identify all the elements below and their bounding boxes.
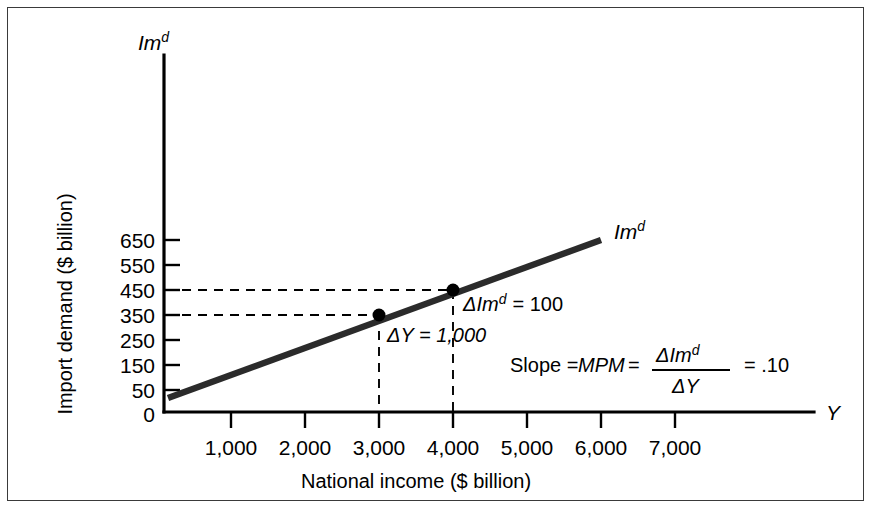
- slope-denominator: ΔY: [671, 375, 700, 397]
- delta-im-value: = 100: [512, 293, 563, 315]
- curve-label: Imd: [614, 218, 646, 243]
- slope-formula: Slope = MPM = ΔImd ΔY = .10: [510, 342, 789, 397]
- figure-frame: Import demand ($ billion) National incom…: [7, 7, 864, 501]
- y-axis-symbol-text: Im: [138, 31, 161, 54]
- x-tick-label-4000: 4,000: [427, 436, 480, 459]
- x-tick-label-1000: 1,000: [205, 436, 258, 459]
- import-demand-chart: Import demand ($ billion) National incom…: [8, 8, 865, 500]
- curve-label-text: Im: [614, 220, 637, 243]
- x-tick-label-5000: 5,000: [501, 436, 554, 459]
- x-tick-marks: [231, 412, 675, 428]
- slope-result: = .10: [744, 354, 789, 376]
- x-tick-label-6000: 6,000: [575, 436, 628, 459]
- x-tick-labels: 1,000 2,000 3,000 4,000 5,000 6,000 7,00…: [205, 436, 702, 459]
- x-tick-label-2000: 2,000: [279, 436, 332, 459]
- x-tick-label-3000: 3,000: [353, 436, 406, 459]
- delta-im-annotation: ΔImd= 100: [462, 291, 563, 315]
- slope-numerator: ΔImd: [655, 342, 701, 366]
- curve-label-sup: d: [637, 218, 646, 234]
- slope-prefix: Slope =: [510, 354, 578, 376]
- y-tick-label-550: 550: [120, 254, 155, 277]
- y-tick-labels: 650 550 450 350 250 150 50 0: [120, 229, 155, 426]
- y-tick-label-50: 50: [132, 379, 155, 402]
- delta-im-symbol: ΔIm: [462, 293, 499, 315]
- y-tick-label-450: 450: [120, 279, 155, 302]
- x-axis-symbol: Y: [826, 401, 842, 424]
- delta-y-annotation: ΔY = 1,000: [386, 324, 486, 346]
- x-tick-label-7000: 7,000: [649, 436, 702, 459]
- data-point-4000-450: [447, 284, 460, 297]
- slope-numerator-text: ΔIm: [655, 344, 692, 366]
- x-axis-title: National income ($ billion): [301, 470, 531, 492]
- y-axis-symbol-sup: d: [161, 29, 170, 45]
- slope-numerator-sup: d: [692, 342, 701, 358]
- y-tick-label-350: 350: [120, 304, 155, 327]
- y-tick-label-250: 250: [120, 329, 155, 352]
- y-axis-title: Import demand ($ billion): [54, 193, 76, 414]
- y-tick-label-0: 0: [143, 403, 155, 426]
- data-point-3000-350: [373, 309, 386, 322]
- y-axis-symbol: Imd: [138, 29, 170, 54]
- slope-mpm: MPM: [578, 354, 625, 376]
- y-tick-label-650: 650: [120, 229, 155, 252]
- y-tick-label-150: 150: [120, 354, 155, 377]
- slope-equals: =: [628, 354, 640, 376]
- delta-im-sup: d: [499, 291, 508, 307]
